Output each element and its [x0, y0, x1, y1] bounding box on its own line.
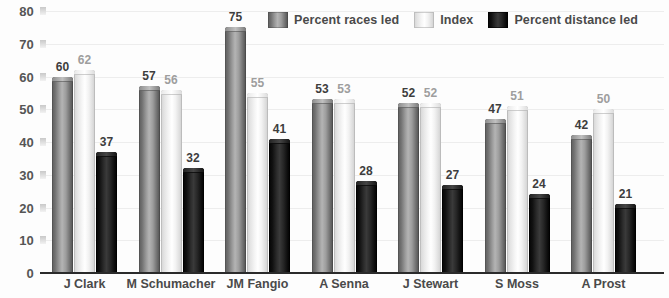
bar-group: 425021: [571, 8, 636, 273]
bar[interactable]: 52: [398, 103, 419, 273]
bar-cap: [183, 168, 204, 173]
bar-cap: [571, 135, 592, 140]
legend-swatch-index: [414, 12, 434, 28]
bar-value-label: 57: [142, 69, 155, 83]
bar-cap: [593, 109, 614, 114]
bar-group: 606237: [52, 8, 117, 273]
bar-cap: [96, 152, 117, 157]
bar[interactable]: 53: [312, 99, 333, 273]
bar-group: 535328: [312, 8, 377, 273]
bar-value-label: 21: [619, 187, 632, 201]
legend-swatch-races-led: [268, 12, 288, 28]
bar-value-label: 50: [597, 92, 610, 106]
x-axis-line: [40, 272, 664, 274]
bar-cap: [485, 119, 506, 124]
bar-value-label: 32: [186, 151, 199, 165]
bar-cap: [225, 27, 246, 32]
bar-chart: 01020304050607080 6062375756327555415353…: [0, 0, 669, 298]
bar[interactable]: 60: [52, 77, 73, 274]
bar-cap: [269, 139, 290, 144]
bar[interactable]: 62: [74, 70, 95, 273]
bar-cap: [507, 106, 528, 111]
bar-cap: [442, 185, 463, 190]
y-axis-tick-label: 40: [19, 135, 34, 150]
bar-cap: [398, 103, 419, 108]
y-axis-tick-label: 30: [19, 167, 34, 182]
legend-swatch-distance-led: [488, 12, 508, 28]
bar[interactable]: 42: [571, 135, 592, 273]
x-axis-category-label: M Schumacher: [127, 277, 216, 291]
bar-value-label: 52: [402, 86, 415, 100]
bar-cap: [334, 99, 355, 104]
y-axis-tick-label: 20: [19, 200, 34, 215]
bar-value-label: 53: [337, 82, 350, 96]
bar[interactable]: 50: [593, 109, 614, 273]
bar-cap: [52, 77, 73, 82]
chart-legend: Percent races ledIndexPercent distance l…: [268, 12, 646, 28]
bar-value-label: 55: [251, 76, 264, 90]
x-axis-category-label: JM Fangio: [227, 277, 289, 291]
x-axis-category-label: J Clark: [64, 277, 106, 291]
legend-item-label: Index: [440, 13, 473, 27]
bar[interactable]: 24: [529, 194, 550, 273]
bar-value-label: 47: [488, 102, 501, 116]
bar-value-label: 62: [78, 53, 91, 67]
bar[interactable]: 28: [356, 181, 377, 273]
x-axis-category-label: A Senna: [319, 277, 369, 291]
bar[interactable]: 57: [139, 86, 160, 273]
x-axis-category-label: A Prost: [582, 277, 626, 291]
bar[interactable]: 53: [334, 99, 355, 273]
bar-cap: [615, 204, 636, 209]
bar-value-label: 42: [575, 118, 588, 132]
bar-value-label: 27: [446, 168, 459, 182]
y-axis-tick-label: 60: [19, 69, 34, 84]
bar-value-label: 53: [315, 82, 328, 96]
y-axis: 01020304050607080: [0, 0, 46, 298]
legend-item-label: Percent races led: [294, 13, 399, 27]
bar-group: 475124: [485, 8, 550, 273]
bar-cap: [161, 90, 182, 95]
plot-area: 6062375756327555415353285252274751244250…: [46, 8, 664, 273]
bar-value-label: 41: [273, 122, 286, 136]
bar-group: 575632: [139, 8, 204, 273]
y-axis-tick-label: 0: [27, 266, 34, 281]
bar-value-label: 37: [100, 135, 113, 149]
bar-value-label: 60: [56, 60, 69, 74]
y-axis-tick-label: 70: [19, 36, 34, 51]
bar-group: 525227: [398, 8, 463, 273]
bar[interactable]: 47: [485, 119, 506, 273]
legend-item[interactable]: Percent races led: [268, 12, 399, 28]
bar[interactable]: 37: [96, 152, 117, 273]
x-axis-category-label: S Moss: [495, 277, 539, 291]
bar[interactable]: 51: [507, 106, 528, 273]
bar-value-label: 52: [424, 86, 437, 100]
bar-value-label: 28: [359, 164, 372, 178]
legend-item-label: Percent distance led: [514, 13, 638, 27]
x-axis-category-label: J Stewart: [403, 277, 459, 291]
bar-cap: [356, 181, 377, 186]
bar[interactable]: 41: [269, 139, 290, 273]
y-axis-tick-label: 10: [19, 233, 34, 248]
bar-cap: [74, 70, 95, 75]
bar-value-label: 75: [229, 10, 242, 24]
legend-item[interactable]: Percent distance led: [488, 12, 638, 28]
y-axis-tick-label: 50: [19, 102, 34, 117]
bar-value-label: 51: [510, 89, 523, 103]
bar[interactable]: 21: [615, 204, 636, 273]
bar-value-label: 56: [164, 73, 177, 87]
bar-cap: [420, 103, 441, 108]
legend-item[interactable]: Index: [414, 12, 473, 28]
bar[interactable]: 52: [420, 103, 441, 273]
bar-group: 755541: [225, 8, 290, 273]
bar[interactable]: 75: [225, 27, 246, 273]
bar[interactable]: 27: [442, 185, 463, 273]
bar[interactable]: 56: [161, 90, 182, 273]
y-axis-tick-label: 80: [19, 4, 34, 19]
bar-cap: [312, 99, 333, 104]
bar[interactable]: 55: [247, 93, 268, 273]
bar-cap: [529, 194, 550, 199]
bar[interactable]: 32: [183, 168, 204, 273]
bar-value-label: 24: [532, 177, 545, 191]
bar-cap: [247, 93, 268, 98]
bar-cap: [139, 86, 160, 91]
